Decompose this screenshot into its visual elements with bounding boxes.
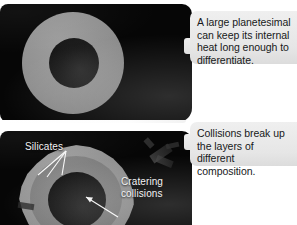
- debris-fragment: [166, 142, 180, 150]
- differentiated-planetesimal-panel: [0, 4, 192, 122]
- panel-bottom-rim: [0, 120, 186, 123]
- label-silicates: Silicates: [25, 141, 63, 153]
- debris-fragment: [143, 137, 154, 148]
- core-layer: [48, 172, 106, 225]
- debris-fragment: [155, 155, 173, 168]
- figure-canvas: Silicates Cratering collisions A large p…: [0, 0, 297, 225]
- collisional-breakup-panel: Silicates Cratering collisions: [0, 131, 192, 225]
- label-cratering: Cratering collisions: [121, 176, 163, 199]
- planetesimal-fragmented: [18, 145, 134, 225]
- core-layer: [49, 38, 99, 88]
- callout-differentiation: A large planetesimal can keep its intern…: [190, 11, 297, 64]
- callout-collisions: Collisions break up the layers of differ…: [190, 122, 297, 166]
- planetesimal-differentiated: [22, 12, 124, 114]
